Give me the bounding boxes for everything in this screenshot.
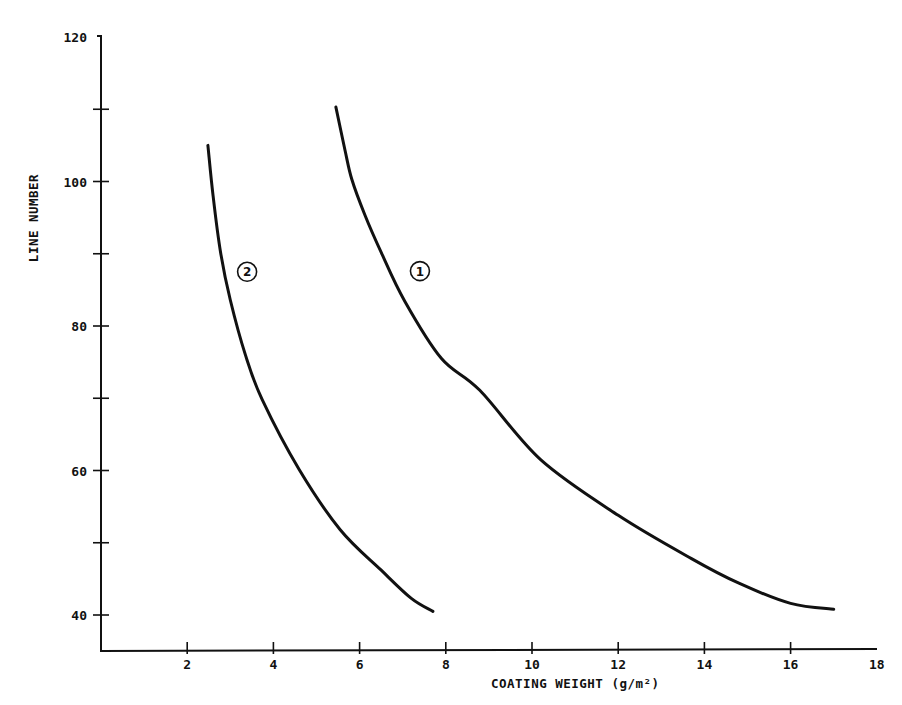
y-tick-label: 120 (64, 30, 88, 45)
curve-1-marker: 1 (410, 262, 429, 281)
curves (208, 107, 834, 611)
y-axis-title: LINE NUMBER (26, 174, 41, 262)
x-tick-label: 18 (869, 657, 885, 672)
x-tick-label: 10 (524, 657, 540, 672)
axis-ticks: 40608010012024681012141618 (64, 30, 885, 672)
curve-markers: 12 (238, 262, 430, 282)
x-tick-label: 2 (183, 657, 191, 672)
axes (97, 36, 877, 651)
chart-canvas: 40608010012024681012141618 12 COATING WE… (0, 0, 902, 705)
x-axis-title: COATING WEIGHT (g/m²) (491, 676, 660, 691)
curve-1 (336, 107, 834, 609)
svg-text:2: 2 (243, 265, 251, 279)
curve-2-marker: 2 (238, 262, 257, 281)
curve-2 (208, 145, 433, 611)
x-tick-label: 8 (442, 657, 450, 672)
x-tick-label: 16 (783, 657, 799, 672)
x-tick-label: 6 (356, 657, 364, 672)
y-tick-label: 40 (71, 608, 87, 623)
axis-lines (97, 36, 877, 651)
svg-text:1: 1 (416, 265, 424, 279)
y-tick-label: 60 (71, 464, 87, 479)
y-tick-label: 100 (64, 175, 88, 190)
x-tick-label: 4 (269, 657, 277, 672)
x-tick-label: 12 (610, 657, 626, 672)
x-tick-label: 14 (697, 657, 713, 672)
y-tick-label: 80 (71, 319, 87, 334)
